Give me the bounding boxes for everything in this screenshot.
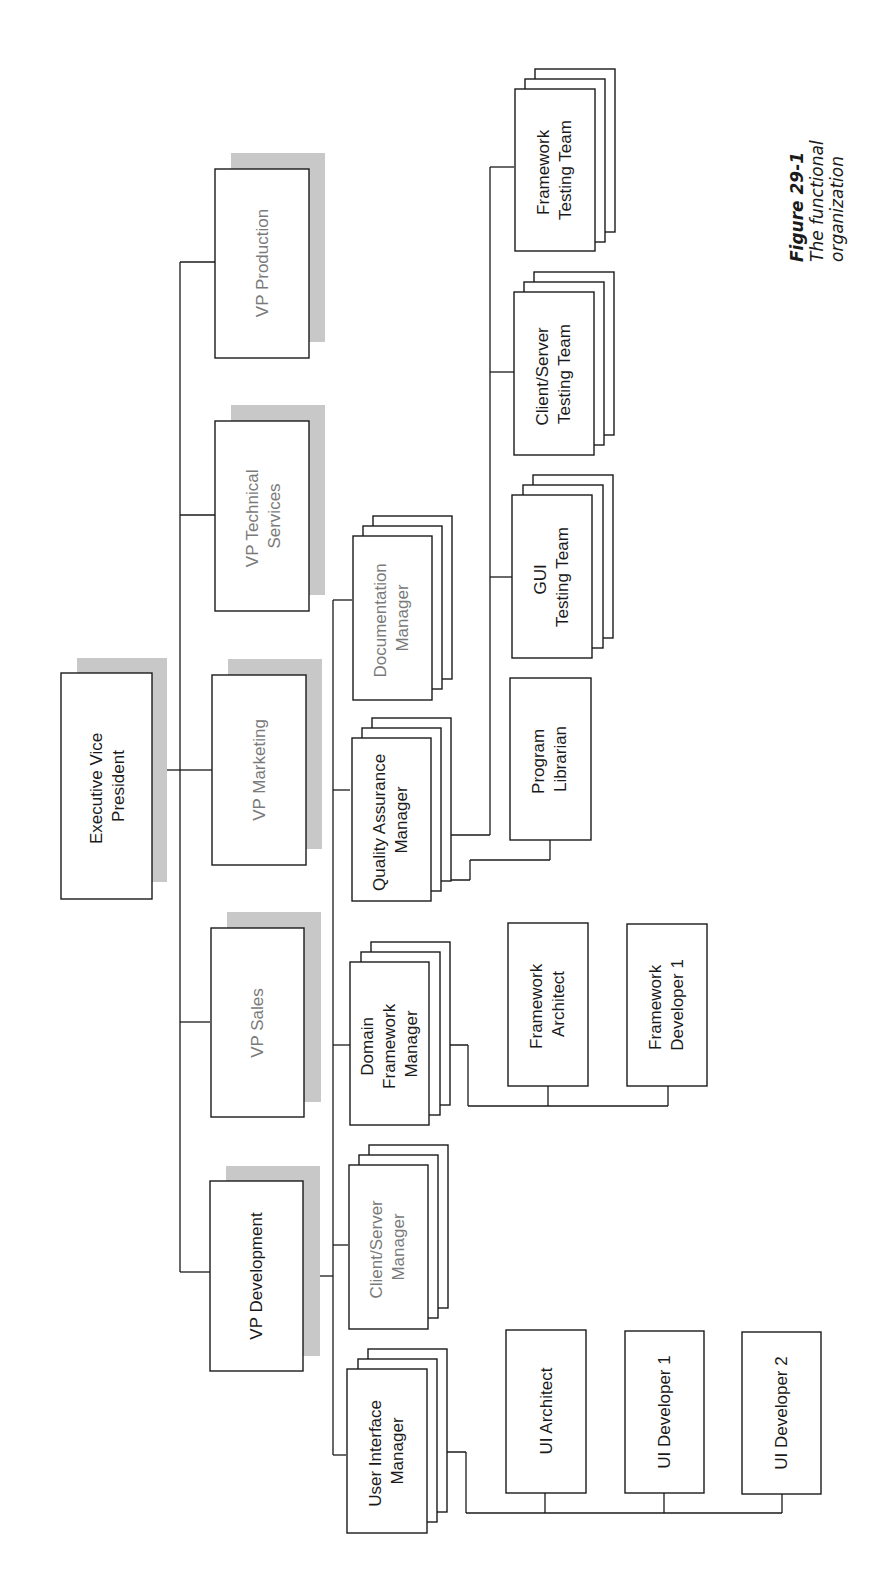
node-label: Testing Team	[556, 120, 575, 220]
node-vp-technical-services[interactable]: VP Technical Services	[215, 405, 325, 611]
node-vp-production[interactable]: VP Production	[215, 153, 325, 358]
node-vp-marketing[interactable]: VP Marketing	[212, 659, 322, 865]
node-domain-framework-manager[interactable]: Domain Framework Manager	[350, 942, 450, 1125]
node-label: Testing Team	[555, 324, 574, 424]
node-label: Program	[529, 729, 548, 794]
figure-caption-line-2: organization	[827, 156, 847, 262]
node-label: User Interface	[366, 1400, 385, 1507]
node-label: VP Production	[253, 209, 272, 317]
node-label: Testing Team	[553, 527, 572, 627]
svg-text:UI Architect: UI Architect	[537, 1367, 556, 1454]
svg-text:UI Developer 1: UI Developer 1	[655, 1355, 674, 1468]
node-program-librarian[interactable]: Program Librarian	[510, 678, 591, 840]
node-label: VP Development	[247, 1212, 266, 1340]
node-label: UI Architect	[537, 1367, 556, 1454]
node-framework-developer-1[interactable]: Framework Developer 1	[627, 924, 707, 1086]
svg-text:VP Marketing: VP Marketing	[250, 719, 269, 821]
node-label: VP Technical	[243, 470, 262, 568]
org-chart: Executive Vice President VP Production V…	[0, 0, 890, 1580]
node-framework-architect[interactable]: Framework Architect	[508, 923, 588, 1086]
svg-text:VP Production: VP Production	[253, 209, 272, 317]
node-label: Librarian	[551, 726, 570, 792]
node-executive-vice-president[interactable]: Executive Vice President	[61, 658, 167, 899]
node-label: Manager	[392, 786, 411, 853]
node-label: Manager	[389, 1213, 408, 1280]
node-label: UI Developer 1	[655, 1355, 674, 1468]
node-label: Framework	[527, 963, 546, 1049]
figure-caption: Figure 29-1 The functional organization	[787, 140, 847, 262]
node-label: Framework	[534, 129, 553, 215]
node-gui-testing-team[interactable]: GUI Testing Team	[512, 475, 613, 658]
svg-text:VP Sales: VP Sales	[248, 988, 267, 1058]
figure-caption-line-1: The functional	[807, 140, 827, 262]
node-vp-development[interactable]: VP Development	[210, 1166, 320, 1371]
node-label: Quality Assurance	[370, 754, 389, 891]
node-ui-developer-1[interactable]: UI Developer 1	[625, 1331, 704, 1493]
node-label: President	[109, 750, 128, 822]
node-label: Domain	[358, 1017, 377, 1076]
node-label: VP Marketing	[250, 719, 269, 821]
node-label: VP Sales	[248, 988, 267, 1058]
node-label: UI Developer 2	[772, 1356, 791, 1469]
node-label: Manager	[388, 1417, 407, 1484]
svg-text:Domain Framework M: Domain Framework Manager	[358, 999, 421, 1089]
node-client-server-manager[interactable]: Client/Server Manager	[349, 1145, 448, 1329]
node-client-server-testing-team[interactable]: Client/Server Testing Team	[514, 272, 614, 455]
node-label: Manager	[402, 1010, 421, 1077]
node-label: Framework	[380, 1003, 399, 1089]
svg-text:VP Development: VP Development	[247, 1212, 266, 1340]
svg-text:UI Developer 2: UI Developer 2	[772, 1356, 791, 1469]
node-label: Framework	[646, 964, 665, 1050]
node-framework-testing-team[interactable]: Framework Testing Team	[515, 69, 615, 251]
node-label: Architect	[549, 971, 568, 1037]
node-label: Client/Server	[533, 327, 552, 426]
node-vp-sales[interactable]: VP Sales	[211, 912, 321, 1117]
node-user-interface-manager[interactable]: User Interface Manager	[347, 1349, 447, 1533]
node-label: Executive Vice	[87, 733, 106, 844]
node-label: Developer 1	[668, 959, 687, 1051]
node-ui-architect[interactable]: UI Architect	[506, 1330, 586, 1493]
svg-text:The functional: The functional	[807, 140, 827, 262]
node-label: Services	[265, 483, 284, 548]
node-documentation-manager[interactable]: Documentation Manager	[353, 516, 452, 700]
node-ui-developer-2[interactable]: UI Developer 2	[742, 1332, 821, 1494]
svg-text:Figure 29-1: Figure 29-1	[787, 152, 807, 262]
node-label: Manager	[393, 584, 412, 651]
node-label: Client/Server	[367, 1200, 386, 1299]
figure-number: Figure 29-1	[787, 152, 807, 262]
node-quality-assurance-manager[interactable]: Quality Assurance Manager	[352, 718, 451, 901]
node-label: Documentation	[371, 563, 390, 677]
node-label: GUI	[531, 564, 550, 594]
svg-text:organization: organization	[827, 156, 847, 262]
